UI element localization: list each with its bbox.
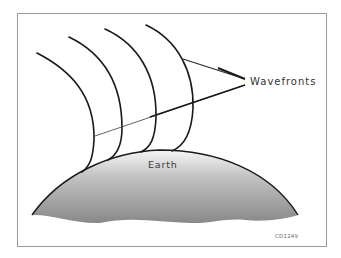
wavefront-2	[69, 37, 122, 160]
earth-label: Earth	[148, 159, 177, 170]
leader-line-upper-thick	[218, 68, 245, 79]
wavefronts-label: Wavefronts	[250, 76, 316, 87]
wavefront-1	[37, 53, 94, 172]
figure-code: CD1249	[275, 233, 298, 239]
leader-line-lower-thick	[150, 85, 245, 117]
wavefront-diagram	[0, 0, 341, 258]
wavefront-3	[105, 29, 156, 152]
